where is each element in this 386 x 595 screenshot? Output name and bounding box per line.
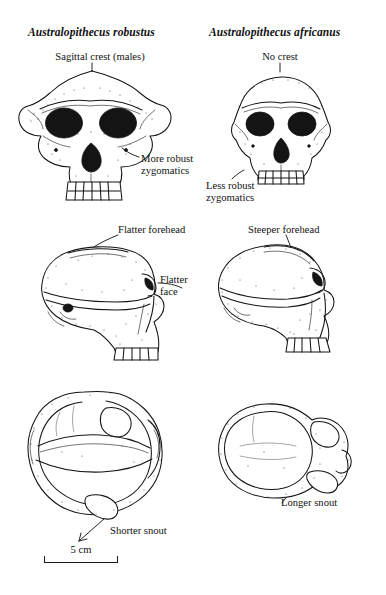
species-title-africanus: Australopithecus africanus [209,26,340,38]
scale-bar-rule [44,556,118,563]
skull-robustus-superior [22,386,190,522]
skull-africanus-lateral [212,238,358,360]
skull-africanus-superior [214,398,358,506]
label-shorter-snout: Shorter snout [110,525,167,537]
scale-bar: 5 cm [44,544,118,563]
species-title-robustus: Australopithecus robustus [28,26,155,38]
skull-robustus-lateral [32,240,184,366]
comparative-skull-figure: Australopithecus robustus Australopithec… [0,0,386,595]
label-sagittal-crest: Sagittal crest (males) [34,51,166,63]
label-more-robust-zygomatics: More robust zygomatics [141,153,193,178]
label-no-crest: No crest [232,51,328,63]
skull-africanus-frontal [218,72,344,194]
label-steeper-forehead: Steeper forehead [248,224,319,236]
scale-bar-label: 5 cm [44,544,118,556]
label-flatter-forehead: Flatter forehead [118,224,185,236]
label-longer-snout: Longer snout [281,497,337,509]
label-less-robust-zygomatics: Less robust zygomatics [206,180,255,205]
skull-robustus-frontal [12,66,172,208]
